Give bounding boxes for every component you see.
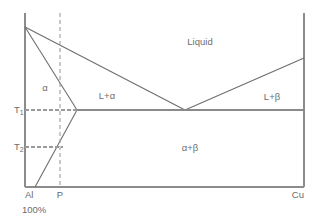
- solidus-left-line: [25, 27, 77, 110]
- region-label-alpha-plus-beta: α+β: [182, 142, 199, 153]
- region-label-alpha: α: [42, 82, 48, 93]
- region-label-liquid-plus-beta: L+β: [264, 91, 281, 102]
- axis-label-cu: Cu: [292, 189, 304, 200]
- region-label-liquid: Liquid: [187, 36, 212, 47]
- phase-diagram-canvas: Liquid α L+α L+β α+β T1 T2 Al P Cu 100%: [0, 0, 322, 224]
- temperature-label-t2-subscript: 2: [20, 146, 24, 153]
- axis-label-composition-p: P: [57, 189, 63, 200]
- phase-diagram-figure: Liquid α L+α L+β α+β T1 T2 Al P Cu 100%: [0, 0, 322, 224]
- temperature-label-t1-subscript: 1: [20, 109, 24, 116]
- region-label-liquid-plus-alpha: L+α: [99, 90, 116, 101]
- axis-label-al-percent: 100%: [22, 204, 47, 215]
- axis-label-al: Al: [25, 189, 33, 200]
- liquidus-right-line: [185, 58, 304, 110]
- temperature-label-t2: T2: [14, 141, 24, 153]
- temperature-label-t1: T1: [14, 104, 24, 116]
- solvus-left-line: [35, 110, 77, 187]
